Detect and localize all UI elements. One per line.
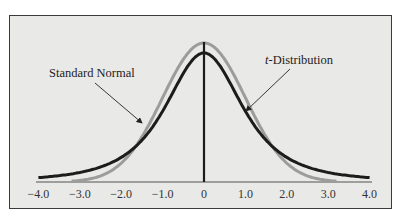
x-tick-label: 2.0	[279, 187, 294, 201]
x-tick-label: −1.0	[152, 187, 174, 201]
t-rest: -Distribution	[268, 53, 333, 67]
x-tick-label: 0	[201, 187, 207, 201]
t-distribution-label: t-Distribution	[265, 53, 334, 67]
standard-normal-label: Standard Normal	[49, 66, 135, 80]
chart-canvas: Standard Normal t-Distribution −4.0−3.0−…	[0, 0, 404, 223]
x-tick-label: 1.0	[238, 187, 253, 201]
standard-normal-arrow	[95, 83, 142, 123]
x-tick-labels: −4.0−3.0−2.0−1.001.02.03.04.0	[28, 187, 378, 201]
t-distribution-arrow	[246, 69, 290, 111]
x-tick-label: 3.0	[321, 187, 336, 201]
x-tick-label: 4.0	[362, 187, 377, 201]
x-tick-label: −2.0	[110, 187, 132, 201]
x-tick-label: −4.0	[28, 187, 50, 201]
x-tick-label: −3.0	[69, 187, 91, 201]
